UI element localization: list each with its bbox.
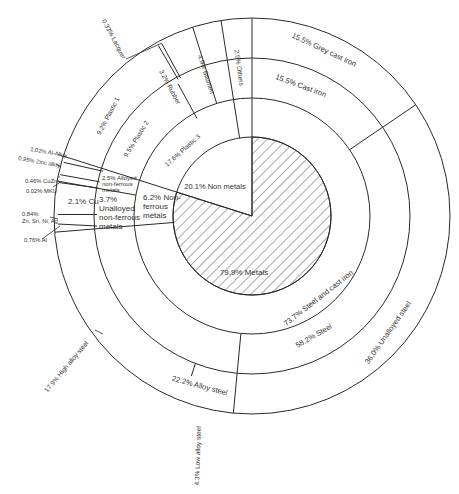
divider-castiron-steel	[350, 105, 416, 150]
divider-unalloyed-alloy	[233, 373, 237, 413]
label-steel: 58.2% Steel	[294, 322, 334, 350]
label-high-alloy-steel: 17.9% High alloy steel	[43, 339, 91, 394]
divider-cuzn	[60, 175, 99, 182]
label-grey-cast-iron: 15.5% Grey cast iron	[290, 31, 357, 69]
label-plastic2: 9.5% Plastic 2	[122, 119, 150, 158]
label-unalloyed-steel: 36.0% Unalloyed steel	[363, 299, 413, 366]
label-lacquer: 0.33% Lacquer	[100, 18, 128, 61]
label-plastic1: 9.2% Plastic 1	[95, 96, 121, 136]
svg-text:metals: metals	[143, 211, 167, 220]
label-metals: 79.9% Metals	[220, 268, 268, 277]
svg-text:ferrous: ferrous	[143, 202, 168, 211]
label-znsn-1: 0.84%	[22, 211, 38, 217]
divider-alloy-start	[237, 334, 241, 374]
label-bitumen: 4.9% Bitumen	[197, 54, 216, 95]
label-al: 0.76% Al	[24, 237, 47, 243]
label-low-alloy-steel: 4.3% Low alloy steel	[193, 426, 203, 486]
label-al-alloy: 1.02% Al-Alloy	[30, 146, 68, 158]
svg-text:3.7%: 3.7%	[99, 195, 117, 204]
label-cast-iron: 15.5% Cast iron	[274, 72, 327, 99]
label-znsn-2: Zn, Sn, Ni, Ag	[22, 218, 58, 224]
small-metal-labels: 1.02% Al-Alloy 0.95% Zinc alloy 0.46% Cu…	[18, 146, 68, 243]
tick-low-high-alloy	[191, 364, 195, 377]
label-plastic3: 17.6% Plastic 3	[163, 132, 201, 167]
label-rubber: 3.2% Rubber	[158, 68, 182, 106]
label-alloy-steel: 22.2% Alloy steel	[171, 374, 229, 398]
label-cu: 2.1% Cu	[68, 197, 99, 206]
label-non-metals: 20.1% Non metals	[184, 182, 246, 191]
label-mku: 0.02% MKU	[26, 188, 57, 194]
label-alloyed-nonferrous: 2.5% Alloyed non-ferrous metals	[102, 175, 137, 193]
svg-text:metals: metals	[102, 187, 120, 193]
svg-text:non-ferrous: non-ferrous	[99, 213, 140, 222]
label-others: 2.5% Others	[233, 49, 245, 86]
svg-text:metals: metals	[99, 222, 123, 231]
svg-text:6.2% Non-: 6.2% Non-	[143, 193, 181, 202]
label-cuzn: 0.46% CuZn	[25, 178, 57, 184]
sunburst-chart: 79.9% Metals 20.1% Non metals 73.7% Stee…	[0, 0, 459, 494]
divider-plastic3-others	[221, 20, 240, 138]
label-zinc-alloy: 0.95% Zinc alloy	[18, 155, 61, 168]
divider-zn-al	[58, 224, 97, 226]
svg-text:Unalloyed: Unalloyed	[99, 204, 135, 213]
divider-mku	[59, 183, 98, 189]
